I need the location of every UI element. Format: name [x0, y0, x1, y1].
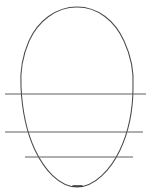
figure-canvas	[0, 0, 152, 195]
diagram-background	[0, 0, 152, 195]
oval-diagram-svg	[0, 0, 152, 195]
